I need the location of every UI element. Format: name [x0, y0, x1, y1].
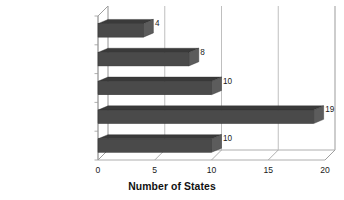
value-axis-tick-labels: 05101520 [0, 0, 344, 200]
x-tick-label: 10 [207, 165, 217, 175]
x-axis-title: Number of States [0, 181, 344, 192]
bar-chart: $100K to $250K$250K to $500K$500K to $1 … [0, 0, 344, 200]
x-tick-label: 20 [320, 165, 330, 175]
x-tick-label: 5 [152, 165, 157, 175]
x-tick-label: 0 [96, 165, 101, 175]
x-tick-label: 15 [263, 165, 273, 175]
